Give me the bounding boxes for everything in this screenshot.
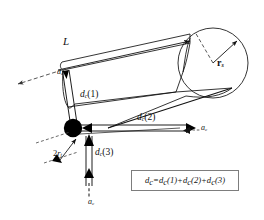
sphere-radius-arrow: [195, 32, 237, 63]
equation-box: dc=dc(1)+dc(2)+dc(3): [131, 170, 239, 191]
label-dc3: dc(3): [95, 148, 113, 158]
d1-arg: (1): [87, 89, 98, 99]
eq-term1-arg: (1): [167, 175, 177, 185]
equation-text: dc=dc(1)+dc(2)+dc(3): [145, 175, 225, 187]
label-ac-right: ac: [201, 124, 207, 133]
ac-sub-right: c: [205, 127, 207, 132]
label-length: L: [63, 36, 69, 47]
length-dimension-arrow: [58, 41, 190, 70]
ac-sub-bottom: c: [92, 201, 94, 206]
label-ac-bottom: ac: [88, 198, 94, 207]
rt-sub: t: [61, 152, 62, 158]
spherical-end-cap: [108, 28, 248, 128]
d3-arg: (3): [102, 147, 113, 157]
label-tube-diameter: 2rt: [53, 149, 62, 158]
rs-sub: s: [221, 61, 223, 68]
ac-sub-top: c: [61, 71, 63, 76]
label-dc1: dc(1): [80, 90, 98, 100]
eq-term3-arg: (3): [215, 175, 225, 185]
figure-canvas: L rs ac ac ac dc(1) dc(2) dc(3) 2rt dc=d…: [0, 0, 264, 220]
vector-dc3: [84, 134, 94, 186]
label-sphere-radius: rs: [217, 58, 224, 69]
d2-arg: (2): [144, 112, 155, 122]
label-ac-top-left: ac: [57, 68, 63, 77]
label-dc2: dc(2): [137, 113, 155, 123]
eq-term2-arg: (2): [191, 175, 201, 185]
